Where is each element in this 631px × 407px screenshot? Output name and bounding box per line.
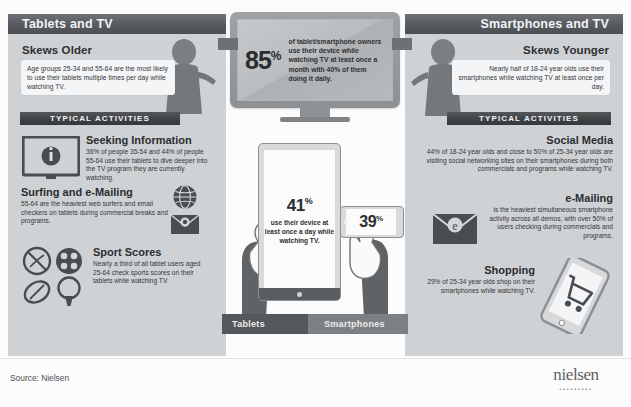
activity-emailing-title: e-Mailing [483,192,613,204]
tablets-panel: Tablets and TV Skews Older Age groups 25… [8,14,226,356]
activity-seeking-information-body: 36% of people 35-54 and 44% of people 55… [86,148,214,183]
tablet-stat-number: 41 [287,196,305,215]
smartphones-panel-body: Skews Younger Nearly half of 18-24 year … [405,34,623,356]
smartphones-panel-title: Smartphones and TV [405,14,623,34]
label-tablets: Tablets [222,314,308,334]
phone-screen: 39% [346,209,396,235]
phone-stat-value: 39% [359,214,382,230]
tv-info-icon [22,136,80,180]
skews-younger-title: Skews Younger [523,44,609,56]
skews-older-body: Age groups 25-34 and 55-64 are the most … [27,64,169,91]
tablet-home-button [297,292,302,297]
activity-sport-scores-title: Sport Scores [93,246,211,258]
skews-older-callout: Age groups 25-34 and 55-64 are the most … [21,60,175,95]
activity-surfing-emailing-body: 55-64 are the heaviest web surfers and e… [21,200,169,226]
activity-shopping: Shopping 29% of 25-34 year olds shop on … [417,264,535,295]
activity-social-media-title: Social Media [415,134,613,146]
sport-icons-group [21,246,87,308]
tablets-panel-header: Tablets and TV [8,14,226,34]
tv-stat-number: 85 [245,46,271,74]
skews-younger-callout: Nearly half of 18-24 year olds use their… [452,60,610,95]
smartphones-panel-header: Smartphones and TV [405,14,623,34]
tv-stat-symbol: % [271,48,282,62]
golf-tee-icon [59,278,80,307]
football-icon [21,277,53,307]
nielsen-logo-dots: ••••••••• [533,386,619,392]
center-column: 85% of tablet/smartphone owners use thei… [222,0,408,407]
tablets-panel-title: Tablets and TV [8,14,226,34]
label-smartphones: Smartphones [308,314,408,334]
activity-seeking-information-title: Seeking Information [86,134,214,146]
phone-home-button [344,220,348,224]
tv-graphic: 85% of tablet/smartphone owners use thei… [230,12,400,108]
envelope-icon [170,212,200,236]
phone-stat-symbol: % [376,214,383,223]
tv-base [280,117,350,122]
tv-stat-value: 85% [245,48,281,73]
basketball-icon [56,248,82,274]
tv-stat-body: of tablet/smartphone owners use their de… [288,37,385,83]
activity-surfing-emailing: Surfing and e-Mailing 55-64 are the heav… [21,186,169,226]
activity-social-media-body: 44% of 18-24 year olds and close to 50% … [415,148,613,174]
skews-younger-body: Nearly half of 18-24 year olds use their… [458,64,604,91]
nielsen-logo-wordmark: nielsen [533,365,619,385]
tablet-screen: 41% use their device at least once a day… [264,150,335,288]
tablet-stat-body: use their device at least once a day whi… [264,218,335,246]
baseball-icon [24,248,50,274]
nielsen-logo: nielsen ••••••••• [533,365,619,392]
infographic-canvas: Tablets and TV Skews Older Age groups 25… [0,0,631,407]
globe-icon [172,184,198,210]
smartphones-typical-activities-ribbon: TYPICAL ACTIVITIES [447,112,611,125]
svg-text:e: e [452,219,457,233]
smartphones-panel: Smartphones and TV Skews Younger Nearly … [405,14,623,356]
activity-social-media: Social Media 44% of 18-24 year olds and … [415,134,613,174]
tablet-graphic: 41% use their device at least once a day… [258,143,341,301]
tablets-ribbon-label: TYPICAL ACTIVITIES [50,114,150,123]
activity-surfing-emailing-title: Surfing and e-Mailing [21,186,169,198]
activity-sport-scores: Sport Scores Nearly a third of all table… [93,246,211,286]
activity-shopping-body: 29% of 25-34 year olds shop on their sma… [417,278,535,295]
tv-stand [300,108,330,117]
source-note: Source: Nielsen [10,373,69,383]
activity-emailing: e-Mailing is the heaviest simultaneous s… [483,192,613,241]
tablets-panel-body: Skews Older Age groups 25-34 and 55-64 a… [8,34,226,356]
activity-seeking-information: Seeking Information 36% of people 35-54 … [86,134,214,183]
tv-wing-left [218,38,238,50]
tablets-typical-activities-ribbon: TYPICAL ACTIVITIES [20,112,180,125]
skews-older-title: Skews Older [22,44,92,56]
activity-emailing-body: is the heaviest simultaneous smartphone … [483,206,613,241]
phone-stat-number: 39 [359,213,376,230]
tablet-stat-value: 41% [287,197,312,214]
phone-shopping-cart-icon [533,258,617,334]
smartphones-ribbon-label: TYPICAL ACTIVITIES [479,114,579,123]
tv-wing-right [392,38,412,50]
activity-sport-scores-body: Nearly a third of all tablet users aged … [93,260,211,286]
email-envelope-icon: e [431,210,479,248]
phone-graphic: 39% [340,206,404,238]
tablet-stat-symbol: % [305,196,313,206]
activity-shopping-title: Shopping [417,264,535,276]
device-labels: Tablets Smartphones [222,314,408,334]
footer-divider [0,358,631,359]
tv-screen: 85% of tablet/smartphone owners use thei… [237,19,393,101]
